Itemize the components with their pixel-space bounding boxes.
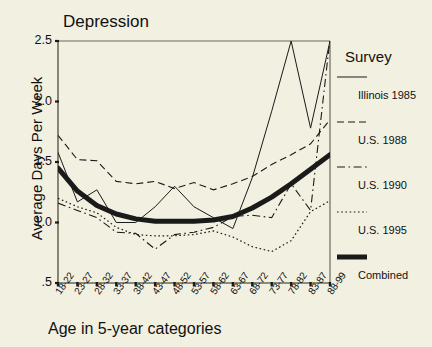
legend-label-illinois-1985: Illinois 1985 xyxy=(358,89,416,101)
legend-label-combined: Combined xyxy=(358,269,408,281)
depression-chart-figure: Depression Average Days Per Week Age in … xyxy=(0,0,432,347)
legend-label-u-s-1988: U.S. 1988 xyxy=(358,134,407,146)
y-tick-label: 1.5 xyxy=(18,154,52,168)
x-axis-label: Age in 5-year categories xyxy=(48,320,221,338)
y-tick-label: 2.0 xyxy=(18,94,52,108)
legend-label-u-s-1990: U.S. 1990 xyxy=(358,179,407,191)
legend-title: Survey xyxy=(345,48,392,65)
legend-label-u-s-1995: U.S. 1995 xyxy=(358,224,407,236)
y-tick-label: 1.0 xyxy=(18,215,52,229)
y-tick-label: .5 xyxy=(18,275,52,289)
y-tick-label: 2.5 xyxy=(18,33,52,47)
chart-title: Depression xyxy=(63,12,149,32)
